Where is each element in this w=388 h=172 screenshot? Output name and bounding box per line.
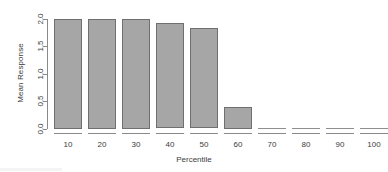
- bar-chart: Mean Response 0.00.51.01.52.0 1020304050…: [0, 0, 388, 172]
- y-axis-title: Mean Response: [14, 8, 28, 138]
- y-axis-tick-label: 1.5: [36, 33, 46, 59]
- y-axis-tick-label: 2.0: [36, 6, 46, 32]
- bar: [88, 19, 116, 129]
- bar: [326, 128, 354, 129]
- x-axis-tick-label: 40: [153, 139, 187, 150]
- x-axis-line-segment: [122, 133, 150, 134]
- bar: [122, 19, 150, 129]
- y-axis-tick-label: 1.0: [36, 61, 46, 87]
- x-axis-tick-label: 70: [255, 139, 289, 150]
- x-axis-tick-label: 60: [221, 139, 255, 150]
- bar: [54, 19, 82, 129]
- x-axis-line-segment: [190, 133, 218, 134]
- x-axis-tick-label: 10: [51, 139, 85, 150]
- bar: [190, 28, 218, 128]
- y-axis-tick-label: 0.5: [36, 88, 46, 114]
- bar: [156, 23, 184, 129]
- y-axis-line: [47, 19, 48, 129]
- bar: [360, 128, 388, 129]
- x-axis-line-segment: [258, 133, 286, 134]
- bar: [224, 107, 252, 129]
- x-axis-tick-label: 90: [323, 139, 357, 150]
- x-axis-tick-label: 20: [85, 139, 119, 150]
- x-axis-line-segment: [88, 133, 116, 134]
- x-axis-title: Percentile: [0, 155, 388, 164]
- y-axis-tick-label: 0.0: [36, 116, 46, 142]
- image-edge-artifact: [0, 168, 62, 171]
- x-axis-line-segment: [224, 133, 252, 134]
- x-axis-tick-label: 100: [357, 139, 388, 150]
- x-axis-tick-label: 80: [289, 139, 323, 150]
- x-axis-line-segment: [360, 133, 388, 134]
- x-axis-line-segment: [54, 133, 82, 134]
- x-axis-line-segment: [326, 133, 354, 134]
- bar: [292, 128, 320, 129]
- x-axis-line-segment: [156, 133, 184, 134]
- bar: [258, 128, 286, 129]
- x-axis-tick-label: 30: [119, 139, 153, 150]
- x-axis-line-segment: [292, 133, 320, 134]
- x-axis-tick-label: 50: [187, 139, 221, 150]
